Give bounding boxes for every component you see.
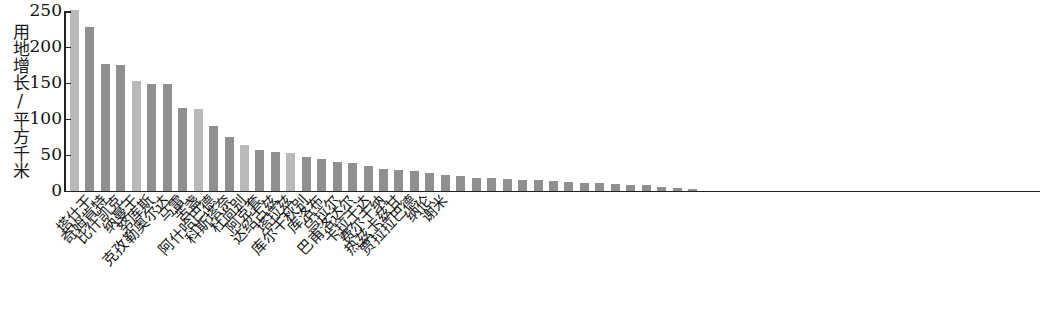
bar [626, 185, 635, 191]
y-tick-mark [65, 83, 71, 85]
y-tick-label: 0 [24, 182, 62, 199]
bar [101, 64, 110, 190]
bar [147, 84, 156, 191]
bar [194, 109, 203, 190]
bar [580, 183, 589, 191]
bar [70, 10, 79, 190]
bar [657, 187, 666, 191]
bar [132, 81, 141, 191]
bar [518, 180, 527, 191]
bar [271, 152, 280, 191]
bar [456, 176, 465, 190]
plot-area [64, 11, 1040, 192]
bars-layer [64, 11, 1040, 191]
x-axis-tick-labels: 塔什干奇姆肯特比什凯克纳曼干努库斯克孜勒奥尔达马雷苦盏阿什哈巴德科斯塔奈杜尚别阿… [64, 192, 1054, 314]
bar [225, 137, 234, 190]
bar [441, 175, 450, 191]
y-tick-mark [65, 47, 71, 49]
y-tick-mark [65, 155, 71, 157]
bar [240, 145, 249, 191]
bar [425, 173, 434, 191]
y-tick-label: 250 [24, 2, 62, 19]
bar [286, 153, 295, 190]
y-tick-mark [65, 119, 71, 121]
bar [410, 171, 419, 190]
bar [364, 166, 373, 190]
bar [564, 182, 573, 191]
bar [503, 179, 512, 190]
bar [394, 170, 403, 190]
y-axis-tick-labels: 050100150200250 [24, 0, 62, 200]
bar [673, 188, 682, 190]
bar [317, 159, 326, 191]
bar [302, 157, 311, 191]
bar [642, 185, 651, 190]
y-tick-label: 50 [24, 146, 62, 163]
bar [348, 163, 357, 191]
bar [255, 150, 264, 191]
y-tick-mark [65, 11, 71, 13]
bar [688, 189, 697, 190]
bar [85, 27, 94, 191]
bar [178, 108, 187, 191]
bar [163, 84, 172, 190]
bar [534, 180, 543, 190]
bar [595, 183, 604, 190]
bar [333, 162, 342, 191]
bar [611, 184, 620, 190]
bar [472, 178, 481, 191]
y-tick-label: 100 [24, 110, 62, 127]
bar [209, 126, 218, 191]
y-tick-label: 200 [24, 38, 62, 55]
bar [487, 178, 496, 190]
bar-chart-figure: 用地增长/平方千米 050100150200250 塔什干奇姆肯特比什凯克纳曼干… [0, 0, 1054, 314]
bar [379, 169, 388, 191]
bar [116, 65, 125, 191]
y-tick-label: 150 [24, 74, 62, 91]
bar [549, 181, 558, 190]
